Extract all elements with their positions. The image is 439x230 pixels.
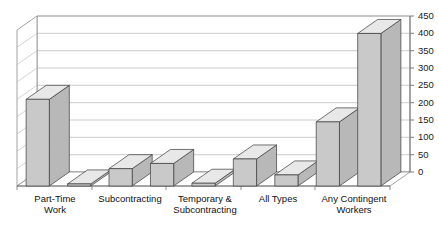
y-tick-150: 150 [418, 115, 434, 125]
y-tick-350: 350 [418, 46, 434, 56]
bar-7 [316, 108, 359, 186]
category-label-subcontracting: Subcontracting [90, 193, 170, 204]
y-tick-100: 100 [418, 132, 434, 142]
bar-8 [358, 19, 401, 186]
category-label-temporary-subcontracting: Temporary & Subcontracting [163, 193, 247, 215]
bar-0 [26, 85, 69, 186]
y-tick-200: 200 [418, 98, 434, 108]
category-label-part-time-work: Part-Time Work [17, 193, 93, 215]
y-tick-50: 50 [418, 150, 429, 160]
category-label-any-contingent-workers: Any Contingent Workers [310, 193, 398, 215]
y-tick-300: 300 [418, 63, 434, 73]
chart-root: 450 400 350 300 250 200 150 100 50 0 Par… [0, 0, 439, 230]
y-axis-ticks [410, 16, 414, 172]
y-tick-400: 400 [418, 28, 434, 38]
y-tick-0: 0 [418, 167, 423, 177]
y-tick-450: 450 [418, 11, 434, 21]
category-label-all-types: All Types [243, 193, 313, 204]
y-tick-250: 250 [418, 80, 434, 90]
x-axis-ticks [17, 186, 390, 190]
